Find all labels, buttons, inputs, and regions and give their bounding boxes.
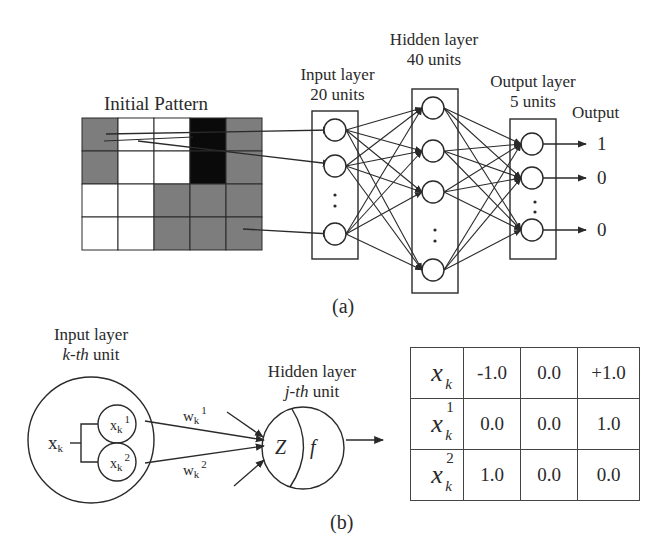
table-cell: +1.0 bbox=[578, 348, 640, 399]
output-value-3: 0 bbox=[597, 219, 607, 241]
hidden-neuron bbox=[422, 97, 444, 119]
hidden-unit-subtitle: j-th unit bbox=[258, 382, 366, 402]
z-sum-label: Z bbox=[275, 437, 286, 457]
pattern-cell bbox=[226, 184, 262, 217]
table-cell: 0.0 bbox=[578, 450, 640, 501]
initial-pattern-title: Initial Pattern bbox=[104, 94, 208, 114]
panel-b-caption: (b) bbox=[330, 512, 353, 532]
encoding-table: xk -1.0 0.0 +1.0 x1k 0.0 0.0 1.0 x2k 1.0… bbox=[410, 347, 640, 501]
pattern-cell bbox=[190, 118, 226, 151]
x-k-1-label: xk1 bbox=[110, 413, 130, 435]
input-layer-units: 20 units bbox=[290, 85, 385, 105]
table-cell: 1.0 bbox=[578, 399, 640, 450]
pattern-cell bbox=[118, 151, 154, 184]
pattern-cell bbox=[190, 217, 226, 250]
input-unit-subtitle: k-th unit bbox=[40, 345, 142, 365]
output-neuron bbox=[521, 167, 543, 189]
hidden-unit-title: Hidden layer j-th unit bbox=[258, 362, 366, 402]
output-value-1: 1 bbox=[597, 133, 607, 155]
output-arrows bbox=[543, 144, 586, 230]
input-unit-title: Input layer k-th unit bbox=[40, 325, 142, 365]
output-layer-box bbox=[510, 119, 556, 259]
table-cell: 0.0 bbox=[521, 348, 578, 399]
table-cell: 1.0 bbox=[464, 450, 521, 501]
x-k-2-label: xk2 bbox=[110, 451, 130, 473]
pattern-cell bbox=[190, 184, 226, 217]
output-title: Output bbox=[572, 103, 619, 123]
hidden-unit-name: Hidden layer bbox=[258, 362, 366, 382]
input-unit-diagram bbox=[28, 377, 154, 503]
output-neuron bbox=[521, 133, 543, 155]
row-header: x1k bbox=[411, 399, 464, 450]
hidden-neuron bbox=[422, 181, 444, 203]
pattern-cell bbox=[118, 217, 154, 250]
row-header: x2k bbox=[411, 450, 464, 501]
pattern-cell bbox=[226, 118, 262, 151]
table-row: xk -1.0 0.0 +1.0 bbox=[411, 348, 640, 399]
input-unit-name: Input layer bbox=[40, 325, 142, 345]
output-layer-units: 5 units bbox=[482, 92, 584, 112]
hidden-layer-name: Hidden layer bbox=[384, 30, 484, 50]
pattern-cell bbox=[154, 151, 190, 184]
input-neuron bbox=[324, 155, 346, 177]
table-row: x2k 1.0 0.0 0.0 bbox=[411, 450, 640, 501]
pattern-cell bbox=[82, 151, 118, 184]
pattern-cell bbox=[154, 184, 190, 217]
input-neuron bbox=[324, 119, 346, 141]
panel-a-caption: (a) bbox=[332, 296, 354, 316]
output-neuron bbox=[521, 219, 543, 241]
table-cell: -1.0 bbox=[464, 348, 521, 399]
pattern-cell bbox=[82, 217, 118, 250]
hidden-layer-units: 40 units bbox=[384, 50, 484, 70]
w-k-2-label: wk2 bbox=[183, 458, 207, 480]
hidden-neuron bbox=[422, 140, 444, 162]
hidden-layer-title: Hidden layer 40 units bbox=[384, 30, 484, 70]
input-layer-title: Input layer 20 units bbox=[290, 65, 385, 105]
pattern-cell bbox=[118, 184, 154, 217]
table-row: x1k 0.0 0.0 1.0 bbox=[411, 399, 640, 450]
pattern-cell bbox=[118, 118, 154, 151]
input-neuron bbox=[324, 223, 346, 245]
output-value-2: 0 bbox=[597, 167, 607, 189]
pattern-cell bbox=[226, 217, 262, 250]
pattern-cell bbox=[226, 151, 262, 184]
table-cell: 0.0 bbox=[521, 399, 578, 450]
pattern-cell bbox=[82, 184, 118, 217]
output-layer-title: Output layer 5 units bbox=[482, 72, 584, 112]
w-k-1-label: wk1 bbox=[183, 404, 207, 426]
hidden-neuron bbox=[422, 259, 444, 281]
f-activation-label: f bbox=[310, 437, 316, 457]
table-cell: 0.0 bbox=[464, 399, 521, 450]
pattern-cell bbox=[190, 151, 226, 184]
output-layer-name: Output layer bbox=[482, 72, 584, 92]
table-cell: 0.0 bbox=[521, 450, 578, 501]
row-header: xk bbox=[411, 348, 464, 399]
x-k-label: xk bbox=[48, 432, 63, 454]
pattern-cell bbox=[154, 217, 190, 250]
input-layer-name: Input layer bbox=[290, 65, 385, 85]
